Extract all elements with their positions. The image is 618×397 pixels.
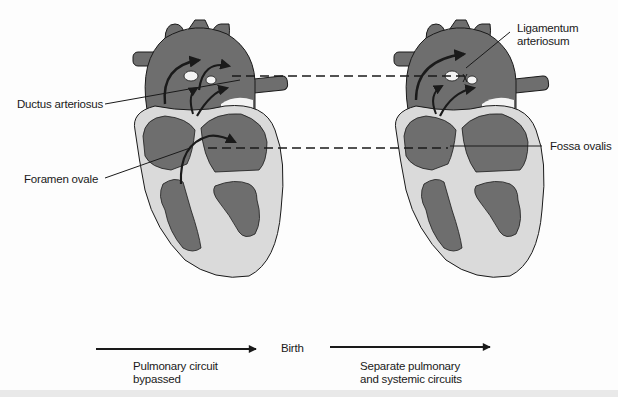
birth-label: Birth — [281, 342, 304, 355]
heart-illustrations — [0, 0, 618, 397]
separate-line1: Separate pulmonary — [360, 360, 462, 373]
ligamentum-arteriosum-label: Ligamentum arteriosum — [517, 22, 578, 48]
separate-line2: and systemic circuits — [360, 373, 462, 386]
fetal-circulation-diagram: Ductus arteriosus Foramen ovale Ligament… — [0, 0, 618, 397]
ductus-arteriosus-label: Ductus arteriosus — [17, 98, 103, 111]
foramen-ovale-label: Foramen ovale — [24, 173, 98, 186]
ligamentum-line2: arteriosum — [517, 35, 578, 48]
pulmonary-line2: bypassed — [133, 373, 218, 386]
pulmonary-line1: Pulmonary circuit — [133, 360, 218, 373]
pulmonary-bypassed-label: Pulmonary circuit bypassed — [133, 360, 218, 386]
fossa-ovalis-label: Fossa ovalis — [550, 140, 612, 153]
ligamentum-line1: Ligamentum — [517, 22, 578, 35]
page-edge — [0, 390, 618, 397]
postnatal-heart — [394, 20, 549, 277]
separate-circuits-label: Separate pulmonary and systemic circuits — [360, 360, 462, 386]
